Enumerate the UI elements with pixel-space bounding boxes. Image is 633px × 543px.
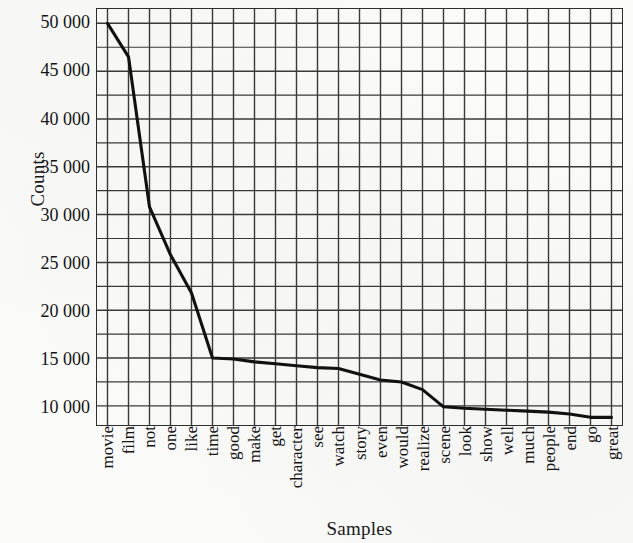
x-tick-label: great (604, 426, 621, 460)
x-axis-tick-labels: moviefilmnotoneliketimegoodmakegetcharac… (96, 426, 623, 516)
data-line-series (97, 9, 622, 425)
x-tick-label: even (372, 426, 389, 458)
y-tick-label: 25 000 (6, 252, 90, 273)
x-tick-label: movie (98, 426, 115, 469)
y-axis-tick-labels: 50 00045 00040 00035 00030 00025 00020 0… (0, 0, 90, 543)
x-axis-title: Samples (96, 518, 623, 540)
x-tick-label: not (140, 426, 157, 448)
plot-area (96, 8, 623, 426)
x-tick-label: watch (330, 426, 347, 467)
x-tick-label: people (541, 426, 558, 471)
x-tick-label: show (477, 426, 494, 462)
y-tick-label: 35 000 (6, 156, 90, 177)
y-tick-label: 15 000 (6, 348, 90, 369)
x-tick-label: film (119, 426, 136, 454)
x-tick-label: one (161, 426, 178, 451)
x-tick-label: good (225, 426, 242, 460)
x-tick-label: story (351, 426, 368, 460)
x-tick-label: look (456, 426, 473, 456)
y-tick-label: 20 000 (6, 300, 90, 321)
x-tick-label: realize (414, 426, 431, 471)
y-tick-label: 10 000 (6, 396, 90, 417)
x-tick-label: get (267, 426, 284, 447)
x-tick-label: make (246, 426, 263, 463)
x-tick-label: see (309, 426, 326, 448)
chart-figure: Counts 50 00045 00040 00035 00030 00025 … (0, 0, 633, 543)
y-tick-label: 45 000 (6, 60, 90, 81)
x-tick-label: like (182, 426, 199, 452)
x-tick-label: much (520, 426, 537, 464)
x-tick-label: end (562, 426, 579, 451)
y-tick-label: 40 000 (6, 108, 90, 129)
x-tick-label: character (288, 426, 305, 488)
x-tick-label: well (499, 426, 516, 455)
x-tick-label: scene (435, 426, 452, 464)
x-tick-label: would (393, 426, 410, 469)
y-tick-label: 30 000 (6, 204, 90, 225)
y-tick-label: 50 000 (6, 12, 90, 33)
x-tick-label: go (583, 426, 600, 443)
x-tick-label: time (203, 426, 220, 456)
